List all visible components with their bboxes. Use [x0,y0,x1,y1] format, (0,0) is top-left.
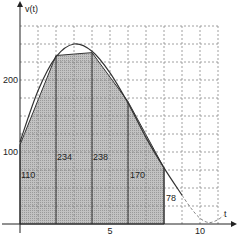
trapezoid-value-label: 110 [21,170,35,180]
trapezoid-value-label: 78 [166,193,176,203]
trapezoid-value-label: 170 [130,170,145,180]
trapezoid-value-label: 238 [93,152,108,162]
chart-container: v(t)t51010020011023423817078 [0,0,237,235]
x-tick-label: 10 [195,226,205,235]
x-tick-label: 5 [107,226,112,235]
x-axis-label: t [224,209,227,219]
y-tick-label: 100 [3,147,18,157]
velocity-curve-dashed [182,195,223,222]
y-tick-label: 200 [3,75,18,85]
y-axis-label: v(t) [25,4,38,14]
trapezoid-chart: v(t)t51010020011023423817078 [0,0,237,235]
trapezoid-value-label: 234 [57,152,72,162]
